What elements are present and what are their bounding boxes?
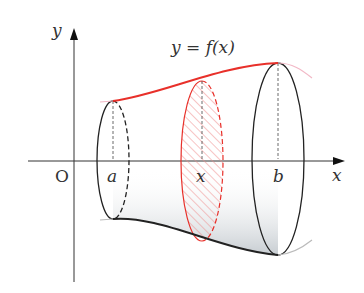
point-a-label: a [107, 166, 117, 186]
x-axis-arrow-icon [333, 157, 345, 165]
y-axis-label: y [51, 20, 62, 40]
origin-label: O [55, 166, 69, 186]
solid-of-revolution-diagram: y x O y = f(x) a x b [0, 0, 364, 293]
point-b-label: b [273, 166, 284, 186]
mirror-curve-extension-left [100, 219, 113, 220]
cross-section-x [181, 81, 223, 241]
x-axis-label: x [332, 165, 342, 185]
point-x-label: x [196, 166, 206, 186]
y-axis-arrow-icon [70, 28, 78, 40]
function-label: y = f(x) [170, 37, 235, 57]
